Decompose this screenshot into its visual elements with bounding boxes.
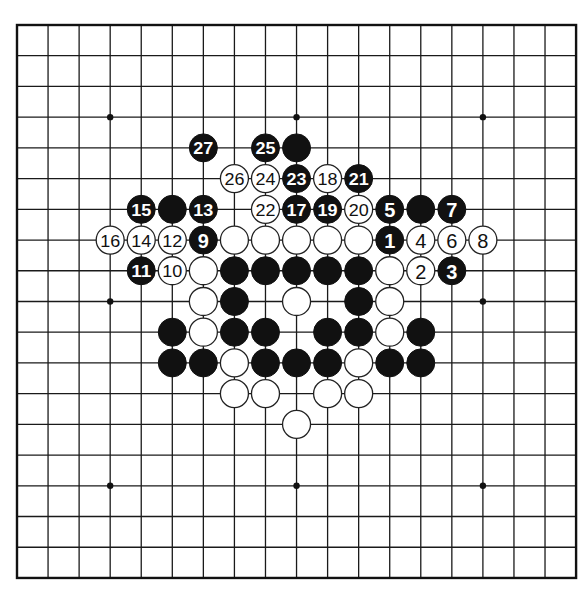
white-stone-disc	[345, 380, 373, 408]
white-stone-disc	[189, 257, 217, 285]
black-stone-disc	[376, 349, 404, 377]
move-number-label: 20	[349, 201, 369, 220]
move-number-label: 6	[446, 230, 457, 252]
black-stone-disc	[283, 349, 311, 377]
white-stone	[314, 226, 342, 254]
black-stone-disc	[251, 318, 279, 346]
move-number-label: 25	[255, 139, 275, 158]
star-point	[480, 483, 486, 489]
white-stone-disc	[345, 349, 373, 377]
white-stone: 8	[469, 226, 497, 254]
white-stone	[251, 380, 279, 408]
move-number-label: 17	[287, 201, 307, 220]
white-stone	[376, 257, 404, 285]
star-point	[107, 298, 113, 304]
white-stone: 6	[438, 226, 466, 254]
black-stone-disc	[314, 318, 342, 346]
black-stone	[407, 195, 435, 223]
black-stone-disc	[251, 349, 279, 377]
black-stone: 25	[251, 134, 279, 162]
white-stone	[189, 318, 217, 346]
move-number-label: 15	[131, 201, 151, 220]
move-number-label: 8	[477, 230, 488, 252]
black-stone	[158, 195, 186, 223]
black-stone-disc	[345, 257, 373, 285]
white-stone	[345, 349, 373, 377]
white-stone-disc	[314, 226, 342, 254]
black-stone-disc	[220, 287, 248, 315]
white-stone	[283, 226, 311, 254]
move-number-label: 5	[384, 199, 395, 221]
black-stone	[376, 349, 404, 377]
black-stone-disc	[251, 257, 279, 285]
star-point	[107, 483, 113, 489]
black-stone	[407, 318, 435, 346]
white-stone-disc	[283, 226, 311, 254]
white-stone: 18	[314, 165, 342, 193]
white-stone: 4	[407, 226, 435, 254]
white-stone	[220, 349, 248, 377]
white-stone	[376, 287, 404, 315]
black-stone-disc	[345, 287, 373, 315]
white-stone: 20	[345, 195, 373, 223]
white-stone: 2	[407, 257, 435, 285]
black-stone	[220, 257, 248, 285]
white-stone	[283, 410, 311, 438]
black-stone-disc	[220, 257, 248, 285]
black-stone-disc	[283, 134, 311, 162]
black-stone	[345, 287, 373, 315]
black-stone-disc	[407, 195, 435, 223]
white-stone-disc	[283, 410, 311, 438]
move-number-label: 27	[193, 139, 213, 158]
white-stone: 26	[220, 165, 248, 193]
star-point	[107, 114, 113, 120]
move-number-label: 9	[198, 230, 209, 252]
white-stone	[220, 380, 248, 408]
move-number-label: 2	[415, 261, 426, 283]
star-point	[293, 114, 299, 120]
go-board-diagram: 2725262423182115132217192057161412914681…	[0, 0, 586, 604]
white-stone: 22	[251, 195, 279, 223]
white-stone	[345, 226, 373, 254]
move-number-label: 3	[446, 261, 457, 283]
black-stone	[158, 349, 186, 377]
move-number-label: 12	[162, 232, 182, 251]
white-stone: 24	[251, 165, 279, 193]
black-stone	[314, 349, 342, 377]
black-stone	[345, 318, 373, 346]
move-number-label: 21	[349, 170, 369, 189]
black-stone-disc	[158, 318, 186, 346]
black-stone-disc	[189, 349, 217, 377]
white-stone-disc	[314, 380, 342, 408]
black-stone-disc	[345, 318, 373, 346]
black-stone	[314, 257, 342, 285]
white-stone-disc	[345, 226, 373, 254]
black-stone-disc	[407, 318, 435, 346]
white-stone-disc	[251, 226, 279, 254]
black-stone-disc	[158, 349, 186, 377]
white-stone	[220, 226, 248, 254]
black-stone-disc	[283, 257, 311, 285]
white-stone-disc	[189, 318, 217, 346]
move-number-label: 24	[255, 170, 275, 189]
black-stone	[283, 349, 311, 377]
black-stone: 15	[127, 195, 155, 223]
white-stone-disc	[220, 226, 248, 254]
star-point	[480, 114, 486, 120]
white-stone	[345, 380, 373, 408]
black-stone	[283, 257, 311, 285]
white-stone	[283, 287, 311, 315]
black-stone: 27	[189, 134, 217, 162]
white-stone: 12	[158, 226, 186, 254]
black-stone-disc	[158, 195, 186, 223]
white-stone-disc	[376, 287, 404, 315]
white-stone	[189, 257, 217, 285]
black-stone	[407, 349, 435, 377]
move-number-label: 13	[193, 201, 213, 220]
move-number-label: 26	[224, 170, 244, 189]
white-stone-disc	[251, 380, 279, 408]
go-board: 2725262423182115132217192057161412914681…	[0, 0, 586, 604]
move-number-label: 23	[287, 170, 307, 189]
move-number-label: 18	[318, 170, 338, 189]
white-stone-disc	[189, 287, 217, 315]
